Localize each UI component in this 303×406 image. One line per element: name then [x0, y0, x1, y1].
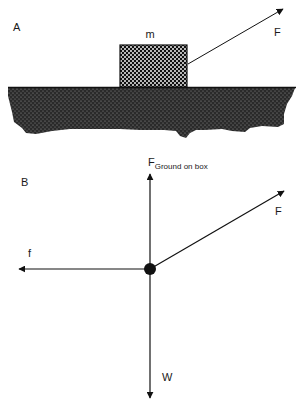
ground-hatch — [8, 88, 295, 138]
applied-force-label: F — [274, 26, 281, 38]
normal-force-label: FGround on box — [148, 156, 208, 171]
center-of-mass-dot-icon — [144, 263, 156, 275]
applied-force-arrow-icon — [188, 9, 283, 64]
panel-a-label: A — [13, 21, 21, 33]
box-mass — [120, 45, 187, 87]
panel-a: A m F — [8, 9, 296, 138]
force-diagram: A m F B FGround on box F f W — [0, 0, 303, 406]
applied-force-b-arrow-icon — [150, 191, 284, 269]
box-mass-label: m — [145, 28, 154, 40]
panel-b: B FGround on box F f W — [19, 156, 284, 398]
applied-force-b-label: F — [275, 205, 282, 217]
ground — [8, 88, 296, 139]
panel-b-label: B — [21, 176, 28, 188]
weight-label: W — [162, 371, 173, 383]
friction-label: f — [28, 247, 32, 259]
